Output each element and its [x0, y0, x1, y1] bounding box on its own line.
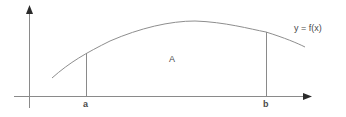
x-tick-label-a: a — [83, 100, 88, 109]
function-label: y = f(x) — [294, 24, 322, 33]
x-tick-label-b: b — [263, 100, 269, 109]
region-label-a: A — [169, 55, 175, 64]
arrow-up-icon — [26, 5, 33, 14]
arrow-right-icon — [303, 93, 312, 100]
area-under-curve-figure: a b A y = f(x) — [0, 0, 346, 117]
function-curve — [52, 21, 305, 78]
